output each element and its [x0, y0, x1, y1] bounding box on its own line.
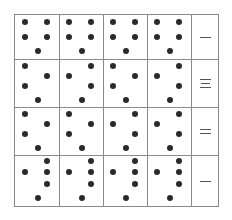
dot-icon [123, 195, 129, 201]
dot-cell [103, 107, 147, 155]
dot-icon [110, 169, 116, 175]
numeral-stroke [200, 37, 211, 38]
dot-cell [147, 59, 191, 107]
dot-icon [132, 131, 138, 137]
dot-icon [44, 158, 50, 164]
dot-icon [132, 19, 138, 25]
row-label-cell [191, 107, 220, 155]
dot-cell [103, 15, 147, 59]
dot-icon [123, 145, 129, 151]
dot-icon [123, 97, 129, 103]
dot-icon [44, 73, 50, 79]
dot-icon [176, 34, 182, 40]
dot-icon [110, 121, 116, 127]
dot-cell [147, 107, 191, 155]
dot-icon [154, 19, 160, 25]
dot-icon [88, 34, 94, 40]
dot-icon [79, 48, 85, 54]
dot-icon [66, 111, 72, 117]
dot-icon [176, 83, 182, 89]
numeral-stroke [200, 87, 211, 88]
dot-icon [44, 121, 50, 127]
dot-cell [15, 107, 59, 155]
dot-icon [35, 97, 41, 103]
dot-icon [88, 19, 94, 25]
dot-icon [110, 63, 116, 69]
dot-icon [176, 111, 182, 117]
dot-icon [132, 73, 138, 79]
dot-icon [88, 63, 94, 69]
dot-cell [103, 59, 147, 107]
dot-icon [176, 131, 182, 137]
dot-icon [88, 121, 94, 127]
dot-icon [22, 34, 28, 40]
dot-icon [22, 63, 28, 69]
dot-icon [79, 145, 85, 151]
dot-icon [35, 48, 41, 54]
dot-cell [103, 155, 147, 207]
dot-icon [110, 83, 116, 89]
dot-icon [123, 48, 129, 54]
dot-icon [44, 169, 50, 175]
dot-cell [15, 59, 59, 107]
dot-icon [154, 121, 160, 127]
dot-pattern-grid [14, 14, 219, 207]
dot-icon [154, 169, 160, 175]
dot-cell [59, 155, 103, 207]
dot-icon [35, 195, 41, 201]
dot-cell [15, 155, 59, 207]
dot-cell [147, 155, 191, 207]
dot-icon [79, 97, 85, 103]
dot-icon [154, 34, 160, 40]
dot-icon [66, 131, 72, 137]
dot-icon [110, 34, 116, 40]
dot-icon [22, 111, 28, 117]
dot-icon [132, 34, 138, 40]
numeral-stroke [200, 79, 211, 80]
dot-icon [44, 19, 50, 25]
dot-icon [22, 19, 28, 25]
numeral-stroke [200, 129, 211, 130]
dot-icon [176, 63, 182, 69]
dot-icon [66, 19, 72, 25]
dot-icon [176, 19, 182, 25]
dot-icon [132, 111, 138, 117]
numeral-stroke [200, 181, 211, 182]
dot-icon [167, 145, 173, 151]
dot-icon [132, 158, 138, 164]
numeral-stroke [201, 83, 210, 84]
dot-icon [167, 195, 173, 201]
dot-icon [88, 169, 94, 175]
dot-icon [88, 158, 94, 164]
dot-icon [176, 169, 182, 175]
dot-cell [15, 15, 59, 59]
dot-icon [154, 73, 160, 79]
dot-icon [176, 158, 182, 164]
dot-icon [35, 145, 41, 151]
dot-icon [79, 195, 85, 201]
dot-icon [66, 73, 72, 79]
dot-icon [22, 169, 28, 175]
dot-cell [147, 15, 191, 59]
dot-cell [59, 107, 103, 155]
dot-icon [132, 169, 138, 175]
dot-icon [167, 48, 173, 54]
dot-icon [167, 97, 173, 103]
dot-icon [44, 34, 50, 40]
dot-icon [66, 34, 72, 40]
dot-cell [59, 59, 103, 107]
dot-icon [176, 181, 182, 187]
dot-icon [66, 169, 72, 175]
dot-icon [22, 83, 28, 89]
dot-icon [132, 181, 138, 187]
dot-icon [88, 83, 94, 89]
row-label-cell [191, 59, 220, 107]
row-label-cell [191, 155, 220, 207]
dot-cell [59, 15, 103, 59]
dot-icon [110, 19, 116, 25]
numeral-stroke [200, 133, 211, 134]
row-label-cell [191, 15, 220, 59]
dot-icon [88, 181, 94, 187]
dot-icon [44, 181, 50, 187]
dot-icon [22, 131, 28, 137]
